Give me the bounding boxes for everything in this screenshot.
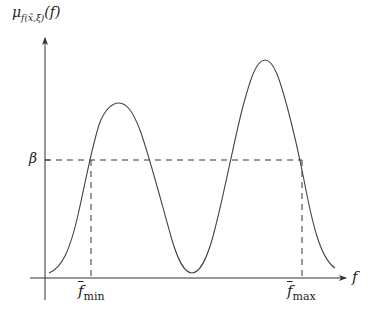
mu-subscript: f(x̃,ξ) bbox=[21, 13, 44, 23]
membership-curve bbox=[49, 60, 335, 273]
x-axis-label: f bbox=[352, 268, 358, 286]
membership-function-diagram bbox=[0, 0, 376, 316]
f-max-label: fmax bbox=[287, 282, 316, 300]
f-min-base: f bbox=[78, 282, 84, 300]
y-axis-label: μf(x̃,ξ)(f) bbox=[12, 4, 60, 20]
f-max-subscript: max bbox=[293, 290, 316, 303]
mu-argument: (f) bbox=[44, 4, 60, 20]
mu-symbol: μ bbox=[12, 4, 21, 20]
f-min-subscript: min bbox=[84, 290, 105, 303]
f-max-base: f bbox=[287, 282, 293, 300]
f-min-label: fmin bbox=[78, 282, 105, 300]
beta-label: β bbox=[29, 150, 37, 166]
